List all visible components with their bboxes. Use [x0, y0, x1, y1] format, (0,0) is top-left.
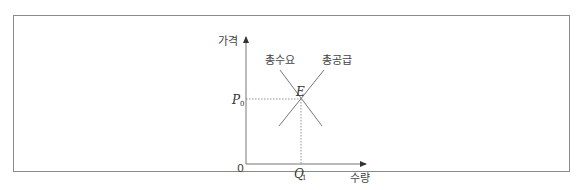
equilibrium-label: E [295, 85, 305, 99]
quantity-subscript: 1 [302, 174, 306, 182]
y-axis-label: 가격 [218, 35, 238, 48]
supply-label: 총공급 [322, 54, 352, 67]
x-axis-label: 수량 [350, 172, 370, 185]
demand-label: 총수요 [265, 54, 295, 67]
origin-label: 0 [237, 162, 244, 175]
aggregate-demand-supply-diagram: 가격 총수요 총공급 E P 0 0 Q 1 수량 [0, 0, 584, 190]
price-subscript: 0 [240, 100, 244, 108]
